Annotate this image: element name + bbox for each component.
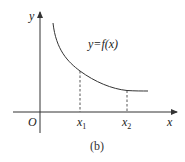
curve-label: y=f(x) xyxy=(87,37,118,51)
function-curve xyxy=(53,23,148,91)
origin-label: O xyxy=(28,115,37,129)
y-axis-label: y xyxy=(28,9,35,23)
x-axis-label: x xyxy=(166,115,173,129)
figure-caption: (b) xyxy=(90,139,104,153)
x1-label: x1 xyxy=(76,115,86,131)
x2-label: x2 xyxy=(121,115,131,131)
function-graph: y x O y=f(x) x1 x2 (b) xyxy=(0,0,185,162)
